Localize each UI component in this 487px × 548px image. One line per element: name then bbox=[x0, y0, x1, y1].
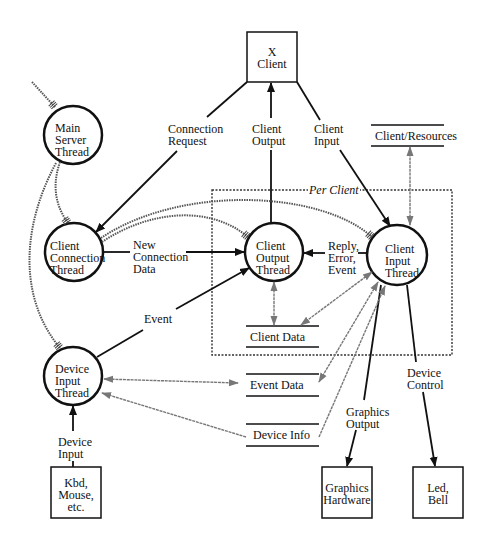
connection-request-label: Connection Request bbox=[168, 123, 223, 147]
device-info-label: Device Info bbox=[253, 429, 310, 441]
client-resources-label: Client/Resources bbox=[375, 130, 457, 142]
led-bell-label: Led, Bell bbox=[413, 482, 463, 506]
flow-main-to-connection bbox=[56, 162, 68, 223]
flow-input-clientdata bbox=[301, 272, 372, 325]
x-client-label: X Client bbox=[247, 46, 297, 70]
client-connection-thread-label: Client Connection Thread bbox=[50, 240, 105, 276]
flow-client-input-a bbox=[297, 82, 320, 120]
kbd-mouse-label: Kbd, Mouse, etc. bbox=[51, 477, 101, 513]
per-client-label: Per Client bbox=[308, 184, 360, 196]
flow-event-a bbox=[97, 330, 143, 357]
flow-connection-request-b bbox=[96, 151, 177, 232]
client-input-flow-label: Client Input bbox=[314, 123, 343, 147]
flow-deviceinfo-device bbox=[102, 393, 246, 437]
flow-device-control-b bbox=[423, 392, 435, 466]
client-data-label: Client Data bbox=[250, 331, 305, 343]
flow-device-eventdata bbox=[104, 379, 238, 383]
client-input-thread-label: Client Input Thread bbox=[385, 243, 419, 279]
graphics-output-flow-label: Graphics Output bbox=[346, 406, 389, 430]
flow-graphics-output-b bbox=[347, 430, 356, 466]
reply-error-event-label: Reply, Error, Event bbox=[328, 240, 359, 276]
main-server-thread-label: Main Server Thread bbox=[55, 122, 89, 158]
device-control-flow-label: Device Control bbox=[407, 367, 444, 391]
event-flow-label: Event bbox=[144, 313, 172, 325]
flow-connection-request-a bbox=[207, 82, 247, 117]
thread-dataflow-diagram: Main Server Thread Client Connection Thr… bbox=[0, 0, 487, 548]
flow-connection-to-output bbox=[102, 215, 248, 242]
device-input-flow-label: Device Input bbox=[58, 436, 92, 460]
client-output-flow-label: Client Output bbox=[252, 123, 285, 147]
device-input-thread-label: Device Input Thread bbox=[55, 363, 89, 399]
client-output-thread-label: Client Output Thread bbox=[256, 240, 290, 276]
graphics-hardware-label: Graphics Hardware bbox=[322, 482, 372, 506]
flow-connection-to-input bbox=[101, 200, 372, 238]
flow-start-main bbox=[32, 82, 55, 107]
new-connection-data-label: New Connection Data bbox=[133, 239, 188, 275]
event-data-label: Event Data bbox=[250, 379, 304, 391]
flow-device-control-a bbox=[407, 285, 416, 362]
